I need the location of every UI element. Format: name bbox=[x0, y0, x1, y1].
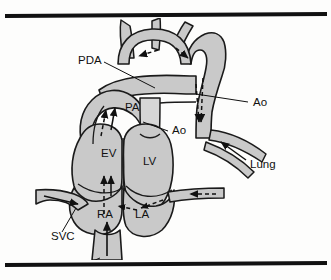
label-ao-upper: Ao bbox=[253, 96, 267, 108]
label-ra: RA bbox=[97, 208, 113, 220]
heart-circulation-diagram: PDA PA Ao Ao EV LV Lung RA LA SVC IVC bbox=[0, 18, 331, 260]
label-pa: PA bbox=[125, 101, 140, 113]
label-ao-root: Ao bbox=[172, 124, 186, 136]
aorta-branch-line bbox=[160, 102, 196, 103]
pulmonary-vein bbox=[168, 188, 224, 202]
label-ev: EV bbox=[101, 147, 117, 159]
bottom-divider-rule bbox=[5, 261, 327, 267]
label-lung: Lung bbox=[250, 158, 276, 170]
label-svc: SVC bbox=[51, 230, 75, 242]
label-pda: PDA bbox=[78, 54, 102, 66]
figure-page: PDA PA Ao Ao EV LV Lung RA LA SVC IVC bbox=[0, 0, 331, 280]
label-la: LA bbox=[135, 208, 149, 220]
vessel-shapes bbox=[36, 18, 266, 260]
arch-flow-left-arrow bbox=[139, 50, 158, 56]
label-lv: LV bbox=[143, 155, 157, 167]
